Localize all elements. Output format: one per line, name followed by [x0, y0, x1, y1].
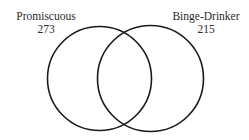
right-circle [98, 26, 204, 132]
left-circle [48, 27, 152, 131]
venn-diagram [0, 0, 249, 140]
